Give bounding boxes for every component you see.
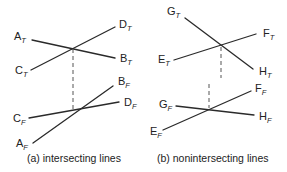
label-FF: FF <box>255 82 267 97</box>
label-CF: CF <box>13 112 26 127</box>
label-HT: HT <box>259 65 273 80</box>
line-ET-FT <box>174 34 256 60</box>
label-EF: EF <box>150 125 162 140</box>
line-CF-DF <box>29 102 119 118</box>
label-AT: AT <box>14 30 27 45</box>
label-ET: ET <box>158 53 171 68</box>
label-BF: BF <box>118 75 130 90</box>
label-DF: DF <box>124 96 137 111</box>
label-FT: FT <box>263 27 276 42</box>
panel-a-intersecting: AT BT CT DT BF DF CF AF (a) intersecting… <box>13 18 137 164</box>
label-GT: GT <box>167 5 182 20</box>
label-BT: BT <box>120 52 133 67</box>
label-GF: GF <box>159 98 173 113</box>
label-DT: DT <box>119 18 133 33</box>
label-HF: HF <box>259 110 272 125</box>
line-EF-FF <box>163 91 251 130</box>
caption-a: (a) intersecting lines <box>27 152 121 164</box>
caption-b: (b) nonintersecting lines <box>157 152 268 164</box>
line-GT-HT <box>185 18 253 69</box>
label-AF: AF <box>16 137 28 152</box>
panel-b-nonintersecting: GT FT ET HT FF GF HF EF (b) nonintersect… <box>150 5 276 164</box>
label-CT: CT <box>15 64 29 79</box>
descriptive-geometry-diagram: AT BT CT DT BF DF CF AF (a) intersecting… <box>0 0 287 172</box>
